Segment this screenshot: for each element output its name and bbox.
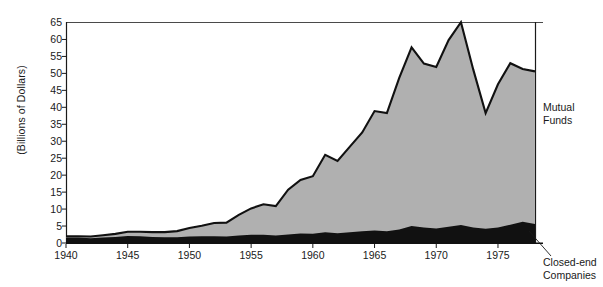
- y-axis-tick-label: 45: [40, 85, 62, 96]
- x-axis-tick-label: 1955: [239, 250, 262, 261]
- annotation-closed-end-line1: Closed-end: [543, 256, 597, 269]
- x-axis-tick-label: 1965: [363, 250, 386, 261]
- x-axis-tick-label: 1940: [54, 250, 77, 261]
- y-axis-title: (Billions of Dollars): [15, 45, 27, 175]
- x-axis-tick-label: 1960: [301, 250, 324, 261]
- y-axis-tick-label: 30: [40, 136, 62, 147]
- y-axis-tick-label: 35: [40, 119, 62, 130]
- y-axis-tick-label: 55: [40, 51, 62, 62]
- annotation-closed-end-line2: Companies: [543, 269, 597, 282]
- y-axis-tick-label: 10: [40, 204, 62, 215]
- chart-figure: (Billions of Dollars) 051015202530354045…: [0, 0, 603, 287]
- plot-area: [0, 0, 603, 287]
- x-axis-tick-label: 1950: [178, 250, 201, 261]
- y-axis-tick-label: 40: [40, 102, 62, 113]
- area-mutual-funds: [66, 22, 535, 243]
- y-axis-tick-labels: 05101520253035404550556065: [36, 0, 62, 287]
- y-axis-tick-label: 0: [40, 238, 62, 249]
- y-axis-tick-label: 20: [40, 170, 62, 181]
- x-axis-tick-marks: [66, 244, 498, 248]
- annotation-mutual-funds-line2: Funds: [543, 114, 575, 127]
- y-axis-tick-label: 5: [40, 221, 62, 232]
- y-axis-tick-marks: [62, 39, 66, 243]
- annotation-mutual-funds-line1: Mutual: [543, 101, 575, 114]
- annotation-mutual-funds: Mutual Funds: [543, 101, 575, 126]
- y-axis-tick-label: 15: [40, 187, 62, 198]
- y-axis-tick-label: 60: [40, 34, 62, 45]
- x-axis-tick-label: 1975: [486, 250, 509, 261]
- y-axis-tick-label: 50: [40, 68, 62, 79]
- x-axis-tick-label: 1945: [116, 250, 139, 261]
- x-axis-tick-label: 1970: [425, 250, 448, 261]
- annotation-closed-end: Closed-end Companies: [543, 256, 597, 281]
- y-axis-tick-label: 65: [40, 17, 62, 28]
- y-axis-tick-label: 25: [40, 153, 62, 164]
